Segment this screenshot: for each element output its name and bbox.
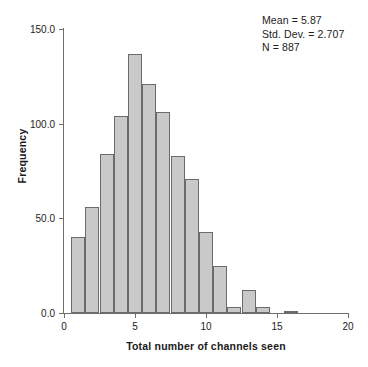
y-tick-label: 100.0: [30, 118, 55, 129]
histogram-chart: Mean = 5.87 Std. Dev. = 2.707 N = 887 Fr…: [0, 0, 368, 367]
histogram-bar: [284, 311, 298, 313]
x-tick-label: 20: [342, 321, 353, 332]
x-tick: 0: [64, 313, 65, 333]
x-tick-label: 15: [271, 321, 282, 332]
x-tick: 15: [277, 313, 278, 333]
y-tick: 100.0: [0, 124, 64, 125]
y-tick: 150.0: [0, 29, 64, 30]
histogram-bar: [128, 54, 142, 313]
x-tick-mark: [135, 313, 136, 318]
x-tick-mark: [277, 313, 278, 318]
histogram-bar: [199, 232, 213, 313]
y-tick-label: 150.0: [30, 24, 55, 35]
stat-mean: Mean = 5.87: [262, 14, 344, 28]
x-tick-mark: [64, 313, 65, 318]
histogram-bars: [64, 29, 348, 313]
x-tick-label: 0: [61, 321, 67, 332]
histogram-bar: [213, 266, 227, 313]
x-tick-mark: [206, 313, 207, 318]
x-tick: 5: [135, 313, 136, 333]
histogram-bar: [100, 154, 114, 313]
histogram-bar: [227, 307, 241, 313]
histogram-bar: [85, 207, 99, 313]
histogram-bar: [171, 156, 185, 313]
histogram-bar: [256, 307, 270, 313]
histogram-bar: [71, 237, 85, 313]
x-tick: 20: [348, 313, 349, 333]
histogram-bar: [242, 290, 256, 313]
x-tick-mark: [348, 313, 349, 318]
histogram-bar: [114, 116, 128, 313]
histogram-bar: [185, 179, 199, 313]
y-tick-label: 0.0: [41, 308, 55, 319]
x-tick: 10: [206, 313, 207, 333]
x-tick-label: 10: [200, 321, 211, 332]
histogram-bar: [156, 112, 170, 313]
x-axis-title: Total number of channels seen: [64, 340, 348, 352]
y-tick: 50.0: [0, 218, 64, 219]
y-tick-label: 50.0: [36, 213, 55, 224]
x-tick-label: 5: [132, 321, 138, 332]
y-axis-title: Frequency: [16, 101, 28, 211]
y-tick: 0.0: [0, 313, 64, 314]
histogram-bar: [142, 84, 156, 313]
